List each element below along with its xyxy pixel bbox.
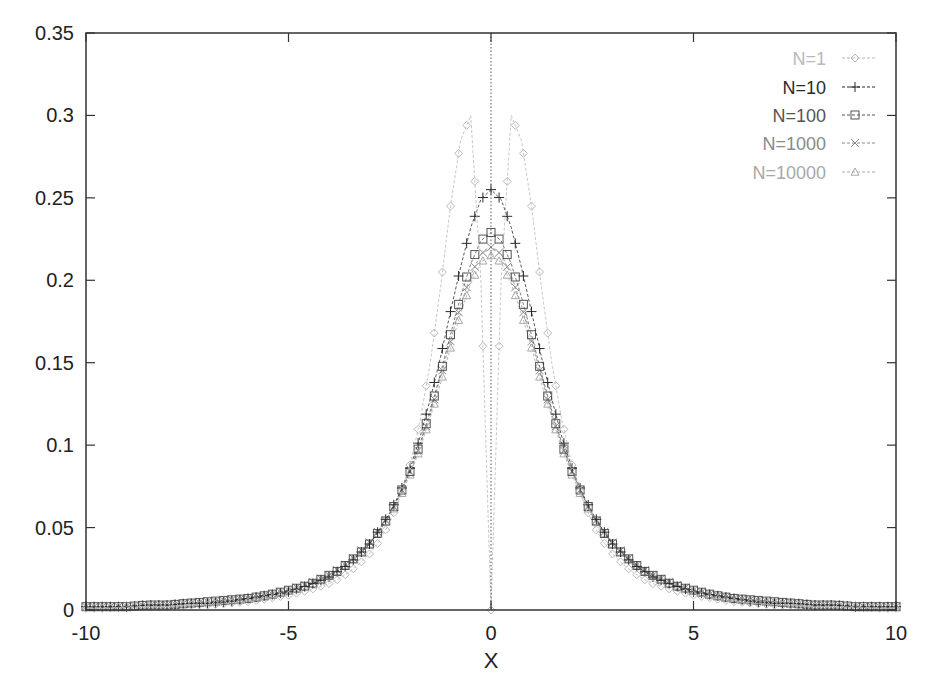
y-tick-label: 0 [63,599,74,621]
legend-item: N=1 [792,49,876,69]
plus-marker [543,377,553,387]
legend-label: N=1 [792,49,826,69]
y-tick-label: 0.35 [35,22,74,44]
legend-label: N=100 [772,106,826,126]
plus-marker [850,82,860,92]
diamond-marker [341,571,349,579]
y-axis: 00.050.10.150.20.250.30.35 [35,22,896,621]
plus-marker [502,211,512,221]
x-tick-label: 5 [688,622,699,644]
y-tick-label: 0.2 [46,269,74,291]
cross-marker [479,249,487,257]
cross-marker [503,263,511,271]
y-tick-label: 0.3 [46,104,74,126]
x-tick-label: -10 [72,622,101,644]
chart: 00.050.10.150.20.250.30.35 -10-50510 X N… [0,0,933,696]
x-axis-label: X [484,648,499,673]
plus-marker [470,211,480,221]
series-layer [81,115,901,614]
square-marker [511,273,519,281]
legend-label: N=10000 [752,163,826,183]
legend: N=1N=10N=100N=1000N=10000 [752,49,876,183]
y-tick-label: 0.15 [35,352,74,374]
x-tick-label: 10 [885,622,907,644]
y-tick-label: 0.25 [35,187,74,209]
cross-marker [495,249,503,257]
legend-item: N=1000 [762,134,876,154]
plus-marker [462,238,472,248]
legend-label: N=10 [782,78,826,98]
plus-marker [421,409,431,419]
diamond-marker [333,576,341,584]
plus-marker [454,271,464,281]
plus-marker [446,307,456,317]
y-tick-label: 0.1 [46,434,74,456]
x-tick-label: 0 [485,622,496,644]
plus-marker [518,271,528,281]
diamond-marker [463,121,471,129]
legend-item: N=10000 [752,163,876,183]
cross-marker [519,308,527,316]
series-n-10000 [82,252,900,610]
plus-marker [494,193,504,203]
y-tick-label: 0.05 [35,517,74,539]
legend-item: N=100 [772,106,876,126]
cross-marker [471,263,479,271]
diamond-marker [349,565,357,573]
plus-marker [527,307,537,317]
square-marker [503,251,511,259]
x-tick-label: -5 [280,622,298,644]
square-marker [471,251,479,259]
legend-label: N=1000 [762,134,826,154]
diamond-marker [609,550,617,558]
diamond-marker [374,539,382,547]
triangle-marker [511,291,519,298]
diamond-marker [560,425,568,433]
legend-item: N=10 [782,78,876,98]
plus-marker [510,238,520,248]
